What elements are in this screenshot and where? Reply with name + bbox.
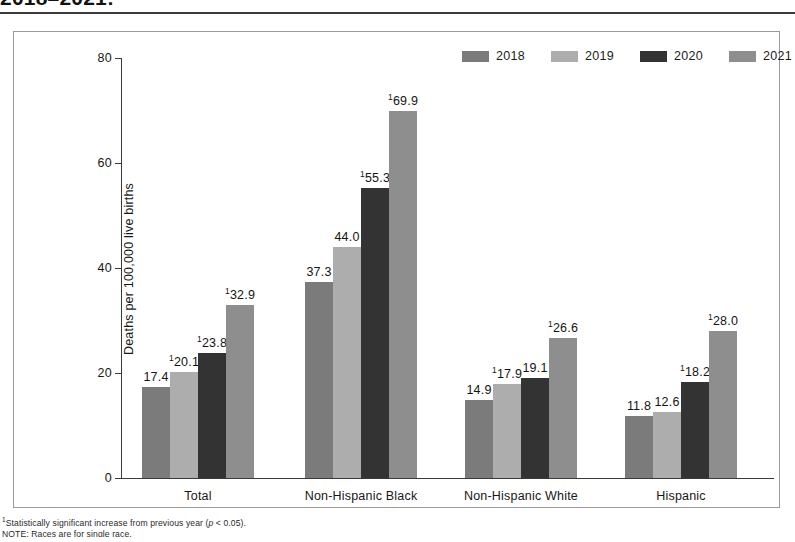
bar-2019-total (170, 372, 198, 478)
bar-column: 126.6 (549, 58, 577, 478)
bar-2018-total (142, 387, 170, 478)
bar-value-label: 155.3 (360, 171, 390, 185)
y-tick-label: 60 (97, 156, 112, 170)
y-tick-mark (115, 268, 121, 269)
bar-group-bars: 17.4120.1123.8132.9 (138, 58, 258, 478)
bar-2019-non-hispanic-white (493, 384, 521, 478)
y-tick-mark (115, 163, 121, 164)
bar-value-label: 117.9 (492, 367, 522, 381)
bar-value-label: 118.2 (680, 365, 710, 379)
bar-2021-total (226, 305, 254, 478)
figure-title-clip: 2018–2021: (0, 0, 795, 12)
bar-value-label: 12.6 (654, 395, 679, 409)
x-axis-line (121, 478, 774, 479)
bar-column: 155.3 (361, 58, 389, 478)
footnote-significance: 1Statistically significant increase from… (2, 514, 602, 529)
footnotes: 1Statistically significant increase from… (2, 514, 602, 537)
bar-column: 169.9 (389, 58, 417, 478)
bar-value-label: 120.1 (169, 355, 199, 369)
bar-2019-hispanic (653, 412, 681, 478)
bar-2020-non-hispanic-white (521, 378, 549, 478)
bar-2020-non-hispanic-black (361, 188, 389, 478)
bar-group: 14.9117.919.1126.6Non-Hispanic White (461, 58, 581, 478)
bar-column: 12.6 (653, 58, 681, 478)
bar-group: 17.4120.1123.8132.9Total (138, 58, 258, 478)
bar-value-label: 11.8 (627, 399, 651, 413)
bar-column: 123.8 (198, 58, 226, 478)
bar-value-label: 128.0 (708, 314, 738, 328)
bar-group-bars: 11.812.6118.2128.0 (621, 58, 741, 478)
figure-container: 2018201920202021 Deaths per 100,000 live… (13, 31, 780, 508)
x-axis-category-label: Non-Hispanic White (464, 489, 578, 503)
bar-column: 11.8 (625, 58, 653, 478)
bar-value-label: 14.9 (466, 383, 491, 397)
bar-column: 37.3 (305, 58, 333, 478)
x-axis-category-label: Non-Hispanic Black (305, 489, 418, 503)
bar-value-label: 44.0 (334, 230, 359, 244)
bar-value-label: 169.9 (388, 94, 418, 108)
bar-group: 11.812.6118.2128.0Hispanic (621, 58, 741, 478)
plot-area: Deaths per 100,000 live births 020406080… (121, 58, 774, 479)
bar-column: 44.0 (333, 58, 361, 478)
y-tick-mark (115, 373, 121, 374)
y-tick-mark (115, 58, 121, 59)
y-tick-label: 20 (97, 366, 112, 380)
bar-2021-non-hispanic-white (549, 338, 577, 478)
bar-2020-total (198, 353, 226, 478)
bar-2021-hispanic (709, 331, 737, 478)
bar-value-label: 19.1 (522, 361, 547, 375)
y-axis-title: Deaths per 100,000 live births (122, 182, 136, 354)
bar-column: 19.1 (521, 58, 549, 478)
bar-group: 37.344.0155.3169.9Non-Hispanic Black (301, 58, 421, 478)
bar-column: 128.0 (709, 58, 737, 478)
bar-2020-hispanic (681, 382, 709, 478)
bar-column: 120.1 (170, 58, 198, 478)
y-tick-label: 80 (97, 51, 112, 65)
y-tick-label: 40 (97, 261, 112, 275)
x-axis-category-label: Hispanic (656, 489, 706, 503)
bar-value-label: 123.8 (197, 336, 227, 350)
bar-column: 117.9 (493, 58, 521, 478)
bar-2021-non-hispanic-black (389, 111, 417, 478)
bar-column: 132.9 (226, 58, 254, 478)
y-tick-mark (115, 478, 121, 479)
y-tick-label: 0 (105, 471, 112, 485)
bar-2018-hispanic (625, 416, 653, 478)
x-axis-category-label: Total (184, 489, 211, 503)
footnote-note: NOTE: Races are for single race. (2, 529, 602, 537)
bar-2018-non-hispanic-white (465, 400, 493, 478)
bar-column: 14.9 (465, 58, 493, 478)
bar-value-label: 132.9 (225, 288, 255, 302)
bar-group-bars: 14.9117.919.1126.6 (461, 58, 581, 478)
bar-column: 17.4 (142, 58, 170, 478)
page-title: 2018–2021: (0, 0, 114, 10)
bar-2018-non-hispanic-black (305, 282, 333, 478)
bar-2019-non-hispanic-black (333, 247, 361, 478)
bar-value-label: 126.6 (548, 321, 578, 335)
bar-value-label: 17.4 (143, 370, 168, 384)
bar-column: 118.2 (681, 58, 709, 478)
bar-value-label: 37.3 (306, 265, 331, 279)
bar-group-bars: 37.344.0155.3169.9 (301, 58, 421, 478)
title-rule-divider (0, 12, 795, 14)
footnote-note-clip: NOTE: Races are for single race. (2, 529, 602, 537)
